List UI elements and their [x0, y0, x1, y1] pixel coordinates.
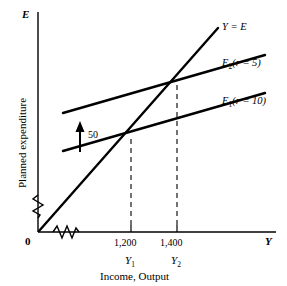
equilibrium-y2-subscript: 2: [177, 260, 181, 269]
series-label-e1-paren: (r = 10): [232, 95, 266, 106]
series-label-e2: E2(r = 5): [222, 58, 261, 71]
equilibrium-label-y2: Y2: [171, 255, 181, 269]
chart-canvas: [0, 0, 287, 286]
series-label-e2-paren: (r = 5): [232, 57, 261, 68]
expenditure-equilibrium-chart: E Y 0 Planned expenditure Income, Output…: [0, 0, 287, 286]
x-axis-variable-label: Y: [265, 236, 272, 247]
series-label-e1: E1(r = 10): [222, 96, 266, 109]
y-axis-variable-label: E: [22, 9, 29, 20]
y-axis-title: Planned expenditure: [17, 98, 28, 188]
x-axis-title: Income, Output: [100, 271, 169, 282]
x-tick-label-1200: 1,200: [114, 238, 137, 248]
series-line-y-equals-e: [39, 28, 218, 231]
shift-arrow-head-icon: [76, 121, 85, 132]
equilibrium-label-y1: Y1: [125, 255, 135, 269]
origin-label: 0: [25, 236, 31, 247]
series-label-y-equals-e: Y = E: [222, 22, 247, 33]
x-tick-label-1400: 1,400: [160, 238, 183, 248]
shift-arrow-label: 50: [88, 130, 98, 140]
equilibrium-y1-subscript: 1: [131, 260, 135, 269]
